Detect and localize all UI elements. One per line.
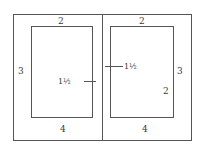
right-bottom-margin-label: 4 — [142, 124, 148, 134]
left-outer-margin-label: 3 — [18, 66, 24, 76]
left-inner-margin-label: 1½ — [58, 77, 71, 87]
left-top-margin-label: 2 — [58, 16, 64, 26]
right-inner-label: 2 — [163, 86, 169, 96]
left-bottom-margin-label: 4 — [60, 124, 66, 134]
left-inner-margin-leader — [84, 81, 96, 82]
right-text-block — [110, 26, 174, 118]
right-outer-margin-label: 3 — [177, 66, 183, 76]
left-text-block — [31, 26, 93, 118]
spine-line — [102, 14, 103, 141]
right-top-margin-label: 2 — [139, 16, 145, 26]
right-inner-margin-leader — [105, 66, 123, 67]
right-inner-margin-label: 1½ — [124, 62, 137, 72]
